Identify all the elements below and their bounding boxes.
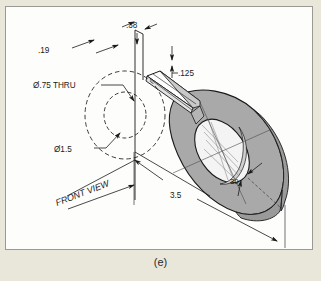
figure-page: .38 .19 .125 Ø.75 THRU Ø1.5	[0, 0, 321, 281]
dimension-3-5-label: 3.5	[170, 191, 182, 200]
dimension-dia-75-thru: Ø.75 THRU	[33, 81, 134, 101]
dimension-125-label: .125	[178, 69, 194, 78]
dimension-38-label: .38	[126, 21, 138, 30]
dashed-circle-dia-75	[104, 92, 146, 138]
front-view-annotation: FRONT VIEW	[54, 178, 134, 209]
dimension-19: .19	[38, 40, 118, 55]
dimension-30-label: 30	[230, 177, 238, 186]
dimension-dia-1-5: Ø1.5	[54, 133, 120, 154]
figure-caption: (e)	[0, 256, 321, 268]
plane-edges	[135, 30, 143, 200]
dimension-125: .125	[172, 46, 194, 78]
dimension-dia-75-thru-label: Ø.75 THRU	[33, 81, 76, 90]
dimension-19-label: .19	[38, 46, 50, 55]
dimension-dia-1-5-label: Ø1.5	[54, 145, 72, 154]
technical-drawing: .38 .19 .125 Ø.75 THRU Ø1.5	[0, 0, 321, 281]
